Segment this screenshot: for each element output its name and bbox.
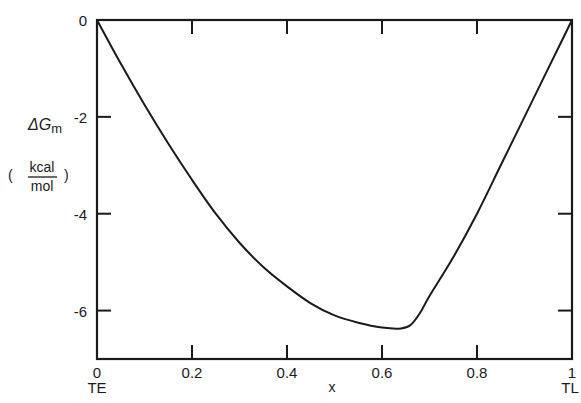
y-axis-units: ( kcal mol ): [8, 159, 69, 194]
axis-ticks: [97, 20, 572, 359]
y-tick-label: -2: [74, 109, 87, 126]
units-close-paren: ): [64, 167, 69, 183]
y-tick-label: 0: [79, 12, 87, 29]
plot-frame: [97, 20, 572, 359]
units-open-paren: (: [8, 167, 13, 183]
x-tick-label: 0.8: [467, 364, 488, 381]
x-tick-label: 0.6: [372, 364, 393, 381]
plot-border: [97, 20, 572, 359]
y-tick-label: -6: [74, 303, 87, 320]
y-axis-label-sub: m: [51, 121, 62, 136]
x-axis-label: x: [329, 379, 336, 395]
y-tick-label: -4: [74, 206, 87, 223]
y-axis-label: ΔGm: [27, 116, 62, 136]
units-numerator: kcal: [30, 159, 55, 175]
x-right-sublabel: TL: [561, 379, 579, 396]
chart: 00.20.40.60.810-2-4-6 ΔGm ( kcal mol ) x…: [0, 0, 581, 403]
tick-labels: 00.20.40.60.810-2-4-6: [74, 12, 577, 381]
x-tick-label: 0.4: [277, 364, 298, 381]
data-curve: [97, 20, 572, 329]
y-axis-label-main: ΔG: [27, 116, 51, 133]
x-tick-label: 0.2: [182, 364, 203, 381]
x-left-sublabel: TE: [87, 379, 106, 396]
units-denominator: mol: [31, 178, 54, 194]
